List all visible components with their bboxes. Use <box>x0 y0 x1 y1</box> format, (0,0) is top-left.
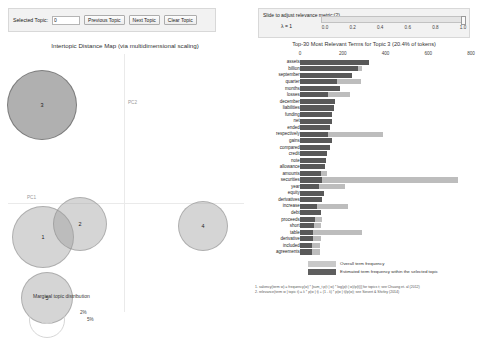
relevance-slider-handle[interactable] <box>461 16 466 25</box>
bar-topic-frequency <box>300 243 312 248</box>
bar-term-label[interactable]: year <box>291 184 300 190</box>
bar-term-label[interactable]: proceeds <box>281 217 300 223</box>
x-tick-600: 600 <box>424 51 432 56</box>
bar-term-label[interactable]: assets <box>287 59 300 65</box>
bar-topic-frequency <box>300 197 322 202</box>
marginal-distribution-label: Marginal topic distribution <box>33 293 90 299</box>
footnotes: 1. saliency(term w) = frequency(w) * [su… <box>255 285 477 296</box>
slider-tick-1.0: 1.0 <box>460 25 466 30</box>
bar-topic-frequency <box>300 204 317 209</box>
slider-tick-0.8: 0.8 <box>432 25 438 30</box>
selected-topic-input[interactable] <box>52 16 80 25</box>
bar-topic-frequency <box>300 191 324 196</box>
bar-term-label[interactable]: derivatives <box>278 197 300 203</box>
legend-item-overall: Overall term frequency <box>308 261 438 267</box>
bar-term-label[interactable]: amounts <box>283 171 300 177</box>
bar-term-label[interactable]: funding <box>285 112 300 118</box>
bar-topic-frequency <box>300 105 334 110</box>
bar-term-label[interactable]: quarter <box>286 79 300 85</box>
bar-term-label[interactable]: note <box>291 158 300 164</box>
topic-bubble-number: 3 <box>41 102 44 108</box>
bar-term-label[interactable]: equity <box>288 190 300 196</box>
bar-term-label[interactable]: debt <box>291 210 300 216</box>
topic-bubble-3[interactable]: 3 <box>7 70 77 140</box>
bar-topic-frequency <box>300 99 335 104</box>
bar-term-label[interactable]: securities <box>281 177 300 183</box>
bar-term-label[interactable]: losses <box>287 92 300 98</box>
pc1-axis-label: PC1 <box>27 195 36 200</box>
bar-topic-frequency <box>300 73 352 78</box>
bar-topic-frequency <box>300 177 322 182</box>
bar-term-label[interactable]: gains <box>289 138 300 144</box>
clear-topic-button[interactable]: Clear Topic <box>164 15 197 25</box>
x-tick-400: 400 <box>382 51 390 56</box>
barchart-legend: Overall term frequency Estimated term fr… <box>308 261 438 277</box>
reference-circle-5% <box>29 302 65 338</box>
x-tick-0: 0 <box>299 51 302 56</box>
bar-term-label[interactable]: agreements <box>276 249 300 255</box>
bar-topic-frequency <box>300 158 326 163</box>
bar-topic-frequency <box>300 112 332 117</box>
term-barchart-panel: Top-30 Most Relevant Terms for Topic 3 (… <box>250 40 478 315</box>
bar-term-label[interactable]: table <box>290 230 300 236</box>
intertopic-distance-map: Intertopic Distance Map (via multidimens… <box>0 40 250 315</box>
bar-term-label[interactable]: derivative <box>281 236 300 242</box>
barchart-bars: assetsbillionseptemberquartermonthslosse… <box>250 59 478 255</box>
bar-topic-frequency <box>300 230 313 235</box>
bar-topic-frequency <box>300 217 315 222</box>
bar-term-label[interactable]: september <box>279 72 300 78</box>
bar-term-label[interactable]: increase <box>283 203 300 209</box>
bar-overall-frequency <box>300 177 458 182</box>
bar-topic-frequency <box>300 164 325 169</box>
bar-topic-frequency <box>300 171 321 176</box>
next-topic-button[interactable]: Next Topic <box>129 15 160 25</box>
slider-tick-0.4: 0.4 <box>377 25 383 30</box>
legend-label-overall: Overall term frequency <box>340 261 384 266</box>
bar-topic-frequency <box>300 210 321 215</box>
bar-topic-frequency <box>300 66 358 71</box>
topic-bubble-number: 1 <box>42 234 45 240</box>
bar-topic-frequency <box>300 145 330 150</box>
previous-topic-button[interactable]: Previous Topic <box>84 15 124 25</box>
bar-term-label[interactable]: short <box>290 223 300 229</box>
bar-term-label[interactable]: allowance <box>280 164 300 170</box>
topic-bubble-2[interactable]: 2 <box>53 197 107 251</box>
bar-row[interactable]: agreements <box>250 249 478 256</box>
relevance-slider[interactable] <box>321 16 465 23</box>
topic-controls-bar: Selected Topic: Previous Topic Next Topi… <box>8 8 216 32</box>
bar-term-label[interactable]: respectively <box>276 131 300 137</box>
bar-term-label[interactable]: net <box>294 118 300 124</box>
bar-term-label[interactable]: months <box>285 86 300 92</box>
lambda-value-label: λ = 1 <box>281 23 292 29</box>
bar-topic-frequency <box>300 138 332 143</box>
bar-term-label[interactable]: liabilities <box>283 105 300 111</box>
x-tick-200: 200 <box>339 51 347 56</box>
bar-topic-frequency <box>300 151 327 156</box>
bar-topic-frequency <box>300 86 340 91</box>
bar-topic-frequency <box>300 223 314 228</box>
topic-bubble-number: 2 <box>79 221 82 227</box>
slider-tick-0.6: 0.6 <box>405 25 411 30</box>
bar-term-label[interactable]: credit <box>289 151 300 157</box>
relevance-metric-panel: Slide to adjust relevance metric:(2) λ =… <box>258 8 470 38</box>
intertopic-map-title: Intertopic Distance Map (via multidimens… <box>0 42 250 49</box>
topic-bubble-4[interactable]: 4 <box>178 201 228 251</box>
selected-topic-label: Selected Topic: <box>13 17 48 23</box>
x-tick-800: 800 <box>467 51 475 56</box>
bar-topic-frequency <box>300 249 312 254</box>
legend-swatch-topic-icon <box>308 269 336 275</box>
slider-tick-0.0: 0.0 <box>322 25 328 30</box>
bar-term-label[interactable]: compared <box>280 145 300 151</box>
bar-topic-frequency <box>300 79 337 84</box>
legend-label-topic: Estimated term frequency within the sele… <box>340 269 438 274</box>
bar-topic-frequency <box>300 60 369 65</box>
bar-term-label[interactable]: ended <box>287 125 300 131</box>
bar-term-label[interactable]: december <box>280 99 300 105</box>
footnote-relevance: 2. relevance(term w | topic t) = λ * p(w… <box>255 290 477 295</box>
bar-term-label[interactable]: included <box>283 243 300 249</box>
bar-term-label[interactable]: billion <box>288 66 300 72</box>
bar-topic-frequency <box>300 125 330 130</box>
reference-circle-label-2%: 2% <box>80 310 87 315</box>
topic-bubble-number: 4 <box>202 223 205 229</box>
bar-topic-frequency <box>300 132 328 137</box>
